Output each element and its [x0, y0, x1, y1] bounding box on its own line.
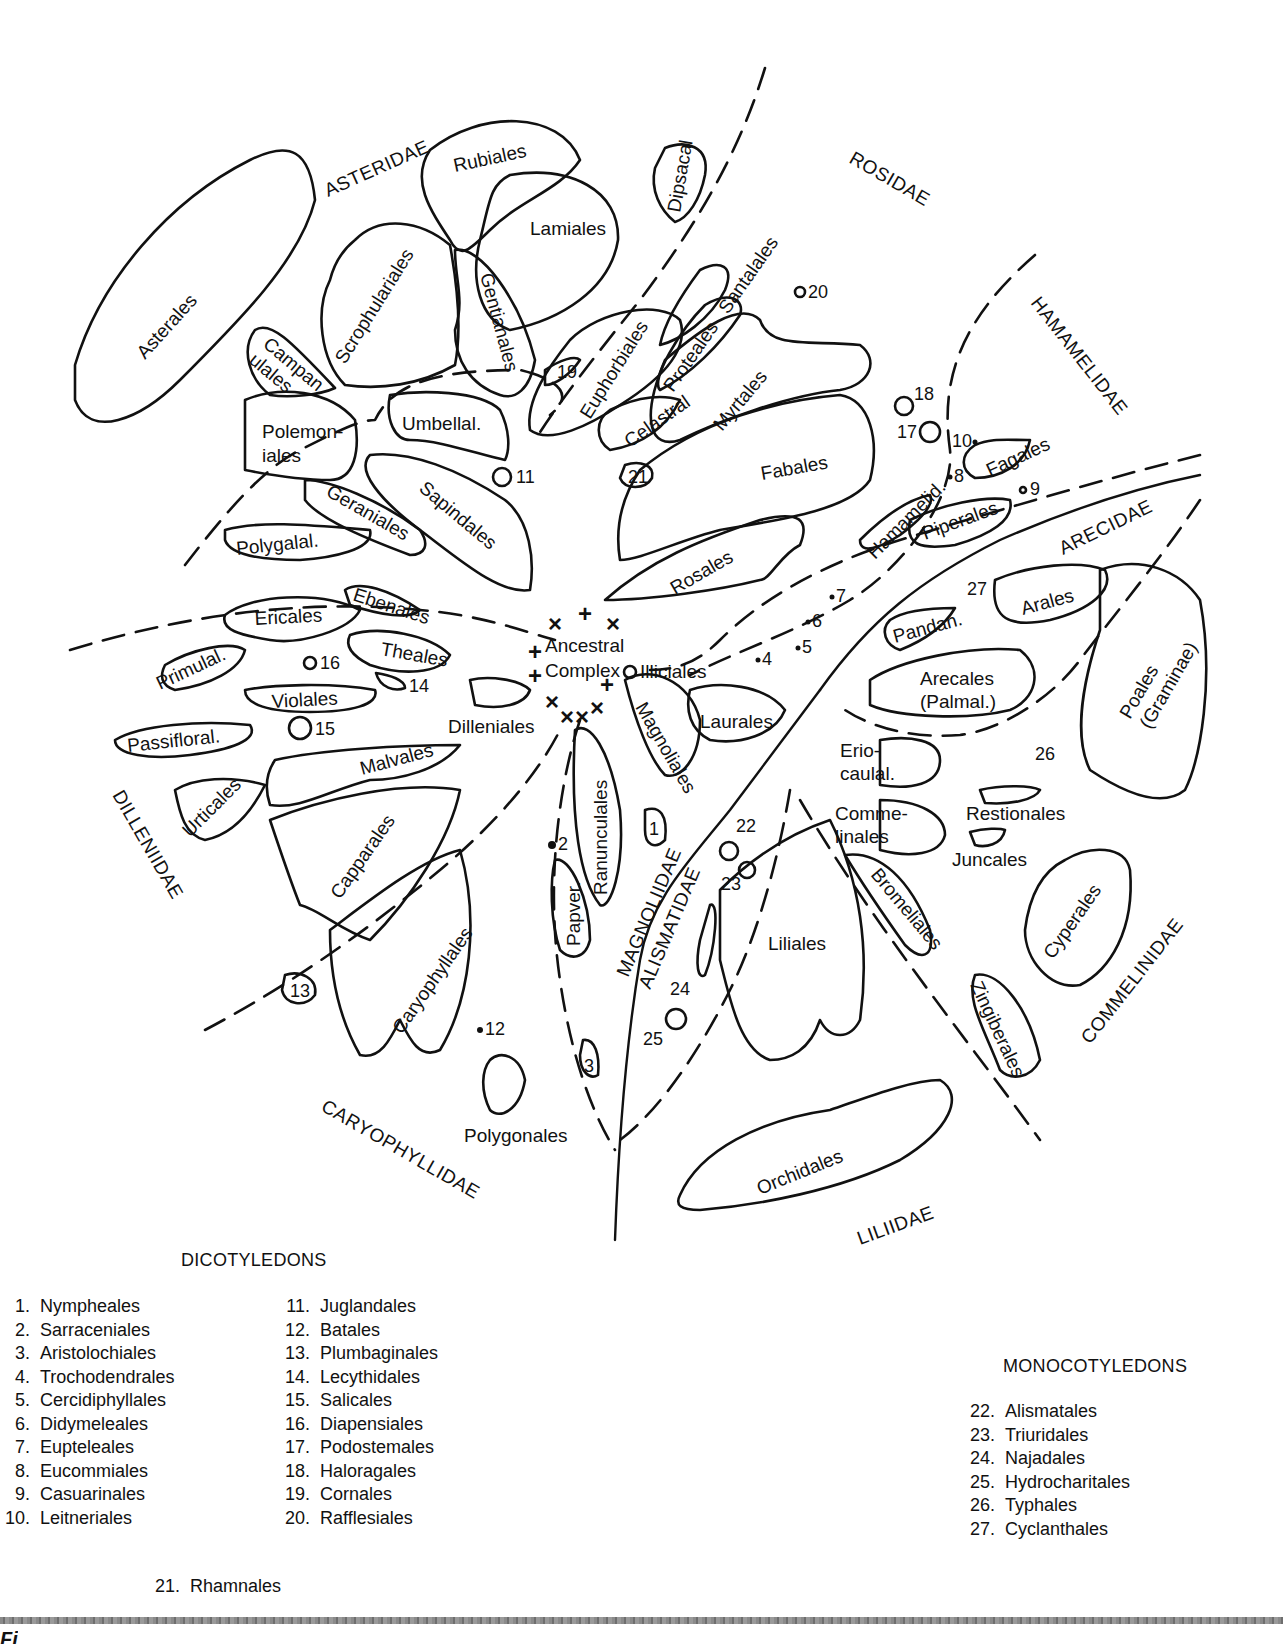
order-20-circle — [795, 287, 805, 297]
svg-text:15: 15 — [315, 719, 335, 739]
svg-text:16: 16 — [320, 653, 340, 673]
label-ebenales: Ebenales — [351, 584, 433, 628]
legend-item: 24.Najadales — [965, 1447, 1130, 1471]
subclass-arecidae: ARECIDAE — [1056, 495, 1156, 558]
label-orchidales: Orchidales — [754, 1145, 846, 1198]
svg-text:25: 25 — [643, 1029, 663, 1049]
label-cyperales: Cyperales — [1039, 880, 1105, 962]
svg-text:14: 14 — [409, 676, 429, 696]
restionales-outline — [980, 786, 1040, 803]
legend-item: 6.Didymeleales — [0, 1413, 174, 1437]
legend-item: 13.Plumbaginales — [280, 1342, 438, 1366]
order-9-circle — [1020, 487, 1026, 493]
legend-item: 10.Leitneriales — [0, 1507, 174, 1531]
legend-item: 15.Salicales — [280, 1389, 438, 1413]
legend-item: 26.Typhales — [965, 1494, 1130, 1518]
label-dipsacal: Dipsacal — [663, 138, 696, 213]
label-polygalal: Polygalal. — [235, 529, 319, 558]
svg-text:×: × — [560, 703, 574, 730]
legend-item: 9.Casuarinales — [0, 1483, 174, 1507]
label-rubiales: Rubiales — [451, 140, 528, 176]
label-ericales: Ericales — [254, 604, 323, 629]
phylogeny-diagram: × + × + + + × × × × Ancestral Complex AS… — [0, 0, 1283, 1644]
svg-text:17: 17 — [897, 422, 917, 442]
legend-item: 23.Triuridales — [965, 1424, 1130, 1448]
svg-text:8: 8 — [954, 466, 964, 486]
svg-text:×: × — [606, 610, 620, 637]
svg-text:26: 26 — [1035, 744, 1055, 764]
label-commelinales-1: Comme- — [835, 803, 908, 824]
subclass-rosidae: ROSIDAE — [846, 147, 934, 210]
subclass-dilleniidae: DILLENIIDAE — [109, 787, 188, 903]
label-polygonales: Polygonales — [464, 1125, 568, 1146]
label-juncales: Juncales — [952, 849, 1027, 870]
svg-text:×: × — [575, 703, 589, 730]
subclass-hamamelidae: HAMAMELIDAE — [1027, 293, 1132, 419]
label-dilleniales: Dilleniales — [448, 716, 535, 737]
legend-item: 3.Aristolochiales — [0, 1342, 174, 1366]
order-16-circle — [304, 657, 316, 669]
order-22-circle — [720, 842, 738, 860]
svg-text:1: 1 — [649, 819, 659, 839]
polygonales-outline — [483, 1055, 525, 1114]
svg-text:×: × — [548, 610, 562, 637]
legend-item: 20.Rafflesiales — [280, 1507, 438, 1531]
legend-item: 4.Trochodendrales — [0, 1366, 174, 1390]
label-polemoniales-1: Polemon- — [262, 421, 343, 442]
svg-text:18: 18 — [914, 384, 934, 404]
label-scrophulariales: Scrophulariales — [331, 245, 418, 367]
label-illiciales: Illiciales — [640, 661, 707, 682]
label-malvales: Malvales — [358, 739, 436, 779]
monocotyledons-title: MONOCOTYLEDONS — [1003, 1356, 1187, 1377]
order-25-circle — [666, 1009, 686, 1029]
label-restionales: Restionales — [966, 803, 1065, 824]
svg-text:21: 21 — [628, 467, 648, 487]
svg-text:11: 11 — [516, 467, 535, 487]
label-violales: Violales — [271, 688, 338, 712]
legend-item: 5.Cercidiphyllales — [0, 1389, 174, 1413]
legend-item: 22.Alismatales — [965, 1400, 1130, 1424]
svg-text:4: 4 — [762, 649, 772, 669]
svg-text:×: × — [590, 694, 604, 721]
dicots-legend-col1: 1.Nympheales 2.Sarraceniales 3.Aristoloc… — [0, 1295, 174, 1530]
dilleniales-outline — [470, 678, 530, 707]
legend-item: 1.Nympheales — [0, 1295, 174, 1319]
order-17-circle — [920, 422, 940, 442]
legend-item: 14.Lecythidales — [280, 1366, 438, 1390]
label-liliales: Liliales — [768, 933, 826, 954]
label-fabales: Fabales — [759, 452, 829, 484]
legend-item: 16.Diapensiales — [280, 1413, 438, 1437]
svg-text:10: 10 — [952, 431, 972, 451]
label-papver: Papver. — [563, 882, 584, 946]
svg-text:20: 20 — [808, 282, 828, 302]
legend-item: 25.Hydrocharitales — [965, 1471, 1130, 1495]
legend-item: 21.Rhamnales — [150, 1575, 281, 1599]
order-11-circle — [493, 468, 511, 486]
legend-item: 19.Cornales — [280, 1483, 438, 1507]
monocots-legend: 22.Alismatales 23.Triuridales 24.Najadal… — [965, 1400, 1130, 1541]
label-eriocaulal-1: Erio- — [840, 740, 880, 761]
footer-divider — [0, 1617, 1283, 1624]
order-18-circle — [895, 397, 913, 415]
dicots-legend-extra: 21.Rhamnales — [150, 1575, 281, 1599]
label-arecales-2: (Palmal.) — [920, 691, 996, 712]
legend-item: 27.Cyclanthales — [965, 1518, 1130, 1542]
subclass-asteridae: ASTERIDAE — [321, 136, 432, 201]
label-polemoniales-2: iales — [262, 445, 301, 466]
label-commelinales-2: linales — [835, 826, 889, 847]
label-laurales: Laurales — [700, 711, 773, 732]
label-lamiales: Lamiales — [530, 218, 606, 239]
svg-text:+: + — [578, 600, 592, 627]
orchidales-outline — [678, 1080, 952, 1210]
svg-text:12: 12 — [485, 1019, 505, 1039]
subclass-commelinidae: COMMELINIDAE — [1077, 914, 1188, 1047]
legend-item: 12.Batales — [280, 1319, 438, 1343]
label-umbellal: Umbellal. — [402, 413, 481, 434]
svg-text:3: 3 — [584, 1056, 594, 1076]
figure-caption: Fi — [0, 1628, 18, 1644]
legend-item: 8.Eucommiales — [0, 1460, 174, 1484]
label-ranunculales: Ranunculales — [590, 780, 611, 895]
ancestral-complex-label-1: Ancestral — [545, 635, 624, 656]
label-gentianales: Gentianales — [476, 271, 523, 374]
svg-text:×: × — [545, 688, 559, 715]
